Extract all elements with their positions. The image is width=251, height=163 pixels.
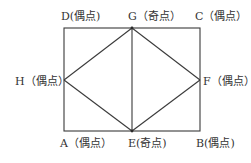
vertex-label-H: H（偶点） xyxy=(15,75,69,88)
graph-diagram: D(偶点) G（奇点） C（偶点） H（偶点） F（偶点） A（偶点） E(奇点… xyxy=(0,0,251,163)
vertex-labels: D(偶点) G（奇点） C（偶点） H（偶点） F（偶点） A（偶点） E(奇点… xyxy=(15,10,251,150)
edges xyxy=(64,28,200,131)
vertex-label-E: E(奇点) xyxy=(128,137,167,150)
vertex-dot-E xyxy=(131,130,134,133)
edge-H-E xyxy=(64,80,132,131)
vertex-label-D: D(偶点) xyxy=(61,10,100,23)
edge-E-F xyxy=(132,80,200,131)
vertex-dot-G xyxy=(131,27,134,30)
vertex-label-A: A（偶点） xyxy=(59,137,112,150)
vertex-label-F: F（偶点） xyxy=(203,75,251,88)
edge-F-G xyxy=(132,28,200,80)
vertex-label-B: B(偶点) xyxy=(196,137,235,150)
edge-G-H xyxy=(64,28,132,80)
vertex-label-G: G（奇点） xyxy=(128,10,181,23)
vertex-label-C: C（偶点） xyxy=(195,10,247,23)
